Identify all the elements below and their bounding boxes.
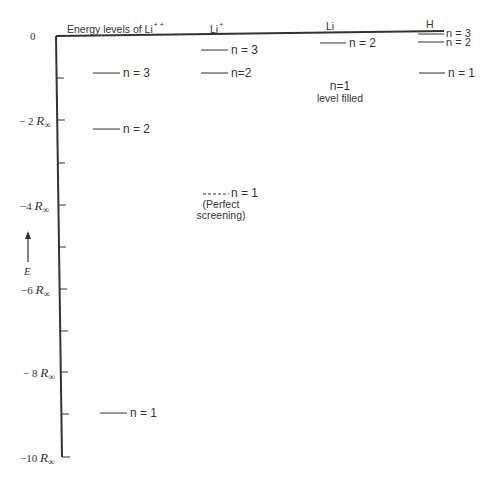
header-h: H — [426, 19, 434, 30]
header-liplus: Li+ — [210, 21, 223, 35]
tick-label-minus10: −10 R∞ — [20, 451, 54, 467]
header-li2plus: Energy levels of Li+ + — [67, 21, 164, 35]
liplus-n3-label: n = 3 — [231, 44, 258, 56]
li-n1-note: n=1 level filled — [308, 80, 372, 104]
tick-label-0: 0 — [30, 31, 36, 42]
arrow-head-icon — [25, 231, 31, 239]
li2plus-n2-label: n = 2 — [123, 123, 150, 135]
liplus-n2-label: n=2 — [231, 67, 251, 79]
h-n2-label: n = 2 — [446, 37, 471, 48]
tick-label-minus4: −4 R∞ — [20, 199, 49, 215]
tick-label-minus8: − 8 R∞ — [23, 366, 55, 382]
perfect-screening-note: (Perfect screening) — [190, 199, 252, 221]
li-n2-label: n = 2 — [349, 37, 376, 49]
li2plus-n3-label: n = 3 — [123, 67, 150, 79]
header-li: Li — [326, 21, 334, 32]
energy-level-diagram: Energy levels of Li+ + Li+ Li H 0 − 2 R∞… — [0, 0, 502, 480]
energy-axis-label: E — [24, 265, 31, 277]
tick-label-minus2: − 2 R∞ — [19, 114, 51, 130]
tick-label-minus6: −6 R∞ — [21, 283, 50, 299]
li2plus-n1-label: n = 1 — [130, 407, 157, 419]
h-n1-label: n = 1 — [448, 67, 475, 79]
